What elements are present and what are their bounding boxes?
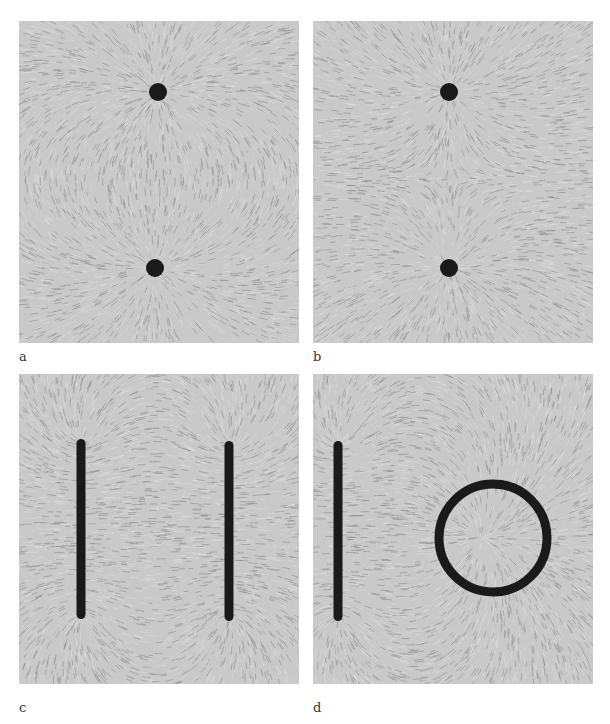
field-lines-two-point-like [313,21,593,343]
point-electrode [146,259,164,277]
panel-c-image [19,374,299,684]
field-lines-plate-and-ring [313,374,593,684]
field-lines-two-point-opposite [19,21,299,343]
panel-d-image [313,374,593,684]
panel-a-label: a [19,350,27,363]
panel-c-label: c [19,701,26,714]
point-electrode [440,83,458,101]
plate-electrode [225,441,234,621]
plate-electrode [334,441,343,621]
plate-electrode [77,439,86,619]
panel-d-label: d [313,701,321,714]
point-electrode [149,83,167,101]
panel-b-label: b [313,350,321,363]
panel-a-image [19,21,299,343]
field-lines-parallel-plates [19,374,299,684]
panel-b-image [313,21,593,343]
point-electrode [440,259,458,277]
